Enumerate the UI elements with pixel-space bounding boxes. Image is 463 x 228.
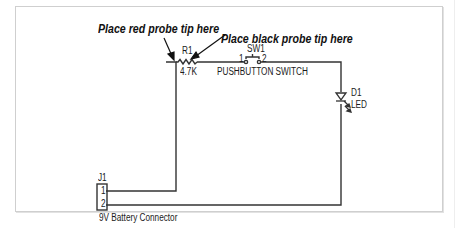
sw1-contact-2-icon [257, 60, 260, 63]
r1-value-label: 4.7K [180, 67, 197, 77]
d1-ref-label: D1 [351, 88, 361, 98]
black-probe-callout: Place black probe tip here [221, 33, 353, 46]
j1-ref-label: J1 [98, 173, 107, 183]
j1-pin1-label: 1 [101, 186, 106, 196]
j1-label: 9V Battery Connector [99, 213, 177, 223]
wire-d1-to-j1-pin2 [106, 104, 341, 205]
sw1-pin2-label: 2 [262, 54, 267, 64]
d1-value-label: LED [351, 100, 367, 110]
sw1-actuator-icon [246, 57, 259, 59]
wire-j1-pin1-to-r1 [106, 62, 176, 191]
sw1-pin1-label: 1 [239, 54, 244, 64]
sw1-label: PUSHBUTTON SWITCH [217, 67, 308, 77]
sw1-contact-1-icon [244, 60, 247, 63]
red-probe-callout: Place red probe tip here [98, 23, 219, 36]
j1-pin2-label: 2 [101, 199, 106, 209]
resistor-r1-icon [176, 60, 197, 65]
r1-ref-label: R1 [182, 46, 192, 56]
led-d1-icon [336, 93, 351, 112]
